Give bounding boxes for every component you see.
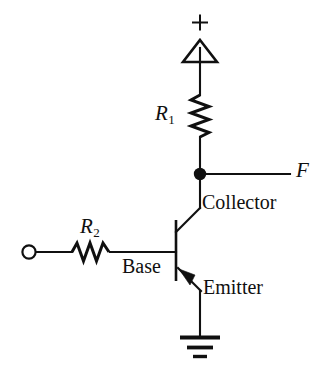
label-base: Base <box>122 256 161 276</box>
plus-sign-icon <box>192 15 208 31</box>
label-r1-subscript: 1 <box>168 112 175 127</box>
circuit-schematic-svg <box>0 0 323 377</box>
label-collector: Collector <box>202 192 276 212</box>
label-r2-name: R <box>80 214 93 238</box>
collector-lead <box>176 208 200 232</box>
label-emitter: Emitter <box>203 277 263 297</box>
label-r2-subscript: 2 <box>93 225 100 240</box>
label-output-f: F <box>296 160 309 181</box>
input-terminal-circle[interactable] <box>22 245 35 258</box>
circuit-diagram: R1 R2 F Collector Base Emitter <box>0 0 323 377</box>
resistor-r2-symbol <box>72 243 109 261</box>
label-r2: R2 <box>80 216 99 237</box>
ground-symbol-icon <box>180 338 220 357</box>
resistor-r1-symbol <box>191 95 209 137</box>
label-r1: R1 <box>155 103 174 124</box>
label-r1-name: R <box>155 101 168 125</box>
